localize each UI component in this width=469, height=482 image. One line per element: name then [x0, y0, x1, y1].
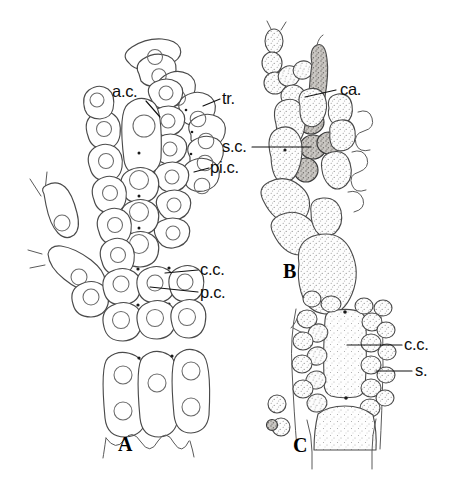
panel-c-drawing — [267, 291, 397, 469]
panel-letter-b: B — [283, 260, 296, 282]
free-spores — [267, 395, 291, 436]
panel-b-drawing — [261, 21, 373, 334]
panel-letter-c: C — [293, 434, 307, 456]
figure-root: a.c. tr. s.c. pi.c. ca. c.c. p.c. c.c. s… — [0, 0, 469, 482]
label-p-c-a: p.c. — [200, 283, 225, 301]
label-ca: ca. — [340, 80, 361, 98]
figure-canvas: a.c. tr. s.c. pi.c. ca. c.c. p.c. c.c. s… — [0, 0, 469, 482]
panel-letter-a: A — [118, 433, 133, 455]
label-c-c-a: c.c. — [200, 260, 224, 278]
basal-axis-cell — [307, 406, 376, 469]
label-c-c-c: c.c. — [404, 335, 428, 353]
midlower-cell-row — [103, 300, 206, 342]
label-s-c: s.c. — [222, 137, 246, 155]
label-s: s. — [415, 361, 427, 379]
panel-a-drawing — [28, 39, 225, 458]
label-pi-c: pi.c. — [210, 158, 239, 176]
central-cell-c — [324, 309, 367, 399]
apical-cell — [122, 98, 162, 175]
label-a-c: a.c. — [112, 82, 137, 100]
label-tr: tr. — [222, 89, 235, 107]
